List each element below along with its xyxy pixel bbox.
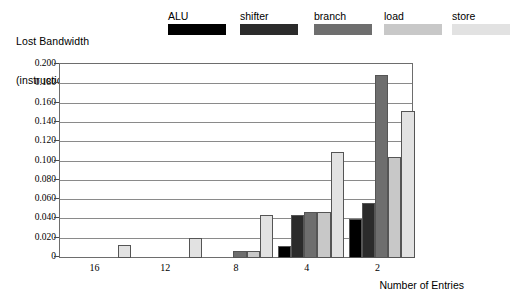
- legend-item-alu: ALU: [168, 10, 230, 35]
- bar-branch-2: [375, 75, 388, 258]
- y-tick-label: 0.080: [6, 174, 56, 184]
- bar-store-2: [401, 111, 414, 258]
- chart-header: Lost Bandwidth (instructions/cycle ALUsh…: [0, 0, 478, 56]
- y-tick-label: 0.100: [6, 155, 56, 165]
- y-tick-label: 0.160: [6, 97, 56, 107]
- x-tick-label-4: 4: [287, 262, 327, 273]
- bar-store-12: [189, 238, 202, 258]
- bar-load-2: [388, 157, 401, 258]
- y-tick-label: 0.200: [6, 58, 56, 68]
- legend-item-branch: branch: [314, 10, 376, 35]
- legend-item-store: store: [452, 10, 514, 35]
- bar-shifter-2: [362, 203, 375, 258]
- bar-shifter-4: [291, 215, 304, 258]
- y-tick-label: 0: [6, 251, 56, 261]
- bar-alu-4: [278, 246, 291, 258]
- legend-label: ALU: [168, 10, 230, 22]
- legend-swatch-shifter: [240, 24, 298, 35]
- legend-swatch-alu: [168, 24, 226, 35]
- x-axis-title: Number of Entries: [379, 279, 464, 291]
- y-tick-label: 0.120: [6, 135, 56, 145]
- legend-item-load: load: [384, 10, 446, 35]
- legend-item-shifter: shifter: [240, 10, 302, 35]
- bar-store-8: [260, 215, 273, 258]
- legend-label: branch: [314, 10, 376, 22]
- chart-legend: ALUshifterbranchloadstore: [168, 10, 468, 46]
- legend-label: load: [384, 10, 446, 22]
- legend-swatch-store: [452, 24, 510, 35]
- bar-branch-8: [233, 251, 246, 258]
- legend-swatch-branch: [314, 24, 372, 35]
- bar-load-8: [247, 251, 260, 258]
- legend-label: store: [452, 10, 514, 22]
- x-tick-label-8: 8: [216, 262, 256, 273]
- legend-label: shifter: [240, 10, 302, 22]
- y-tick-label: 0.140: [6, 116, 56, 126]
- bars-layer: [59, 63, 413, 258]
- bar-load-4: [317, 212, 330, 258]
- y-axis-title-line-1: Lost Bandwidth: [16, 35, 101, 48]
- bar-alu-2: [349, 219, 362, 258]
- y-tick-label: 0.060: [6, 193, 56, 203]
- bar-store-16: [118, 245, 131, 258]
- y-tick-label: 0.040: [6, 212, 56, 222]
- x-tick-label-16: 16: [74, 262, 114, 273]
- y-tick-label: 0.020: [6, 232, 56, 242]
- x-tick-label-12: 12: [145, 262, 185, 273]
- bar-branch-4: [304, 212, 317, 258]
- legend-swatch-load: [384, 24, 442, 35]
- y-tick-label: 0.180: [6, 77, 56, 87]
- x-tick-label-2: 2: [358, 262, 398, 273]
- bar-store-4: [331, 152, 344, 258]
